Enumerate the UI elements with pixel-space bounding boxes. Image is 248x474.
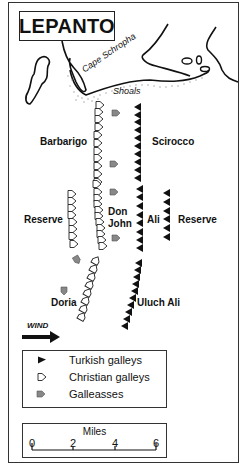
- christian-centre-don-john: [93, 181, 107, 250]
- legend-galleasses: Galleasses: [69, 388, 123, 400]
- legend-christian-galleys: Christian galleys: [69, 371, 150, 383]
- christian-left-wing-barbarigo: [94, 102, 104, 186]
- label-christian-reserve: Reserve: [24, 214, 63, 225]
- label-john: John: [108, 218, 132, 229]
- map-title: LEPANTO: [19, 15, 115, 38]
- scale-tick-0: 0: [29, 437, 35, 449]
- label-doria: Doria: [51, 297, 77, 308]
- label-turkish-reserve: Reserve: [178, 214, 217, 225]
- turkish-reserve: [163, 189, 170, 241]
- scale-title: Miles: [23, 426, 166, 437]
- island: [26, 57, 49, 104]
- label-uluch-ali: Uluch Ali: [137, 297, 180, 308]
- legend-turkish-galleys: Turkish galleys: [69, 354, 142, 366]
- label-don: Don: [108, 206, 127, 217]
- legend: Turkish galleys Christian galleys Gallea…: [22, 350, 167, 408]
- christian-right-wing-doria: [77, 255, 101, 321]
- turkish-left-wing-uluch-ali: [121, 259, 142, 330]
- scale-tick-4: 4: [112, 437, 118, 449]
- map-title-box: LEPANTO: [19, 11, 115, 41]
- christian-reserve: [68, 191, 78, 248]
- scale-tick-2: 2: [70, 437, 76, 449]
- label-wind: WIND: [27, 321, 48, 330]
- scale-tick-6: 6: [153, 437, 159, 449]
- turkish-line-right-wing-and-centre: [134, 103, 143, 252]
- wind-arrow-icon: [22, 331, 60, 343]
- label-shoals: Shoals: [113, 86, 141, 96]
- label-ali: Ali: [147, 214, 160, 225]
- label-barbarigo: Barbarigo: [40, 136, 87, 147]
- label-scirocco: Scirocco: [152, 136, 194, 147]
- scale-box: Miles 0 2 4 6: [22, 423, 167, 458]
